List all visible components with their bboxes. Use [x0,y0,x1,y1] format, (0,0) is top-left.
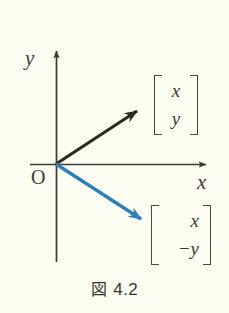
x-axis-label: x [197,172,206,193]
matrix-entry-row2: y [166,105,186,133]
matrix-entry-row2: −y [163,235,199,263]
bracket-right-icon [190,75,198,135]
matrix-label-xy: x y [154,75,198,135]
matrix-body: x y [162,75,190,135]
matrix-entry-row1: x [163,207,199,235]
vector-arrow-xy [56,111,137,164]
bracket-left-icon [154,75,162,135]
coordinate-plot [0,0,229,313]
figure-caption: 図4.2 [0,276,229,300]
matrix-label-x-negy: x −y [151,205,211,265]
vector-arrow-x-negy [56,164,141,219]
matrix-entry-row1: x [166,77,186,105]
caption-figure-word: 図 [91,280,108,299]
origin-label: O [31,167,45,187]
bracket-right-icon [203,205,211,265]
caption-figure-number: 4.2 [113,280,138,299]
bracket-left-icon [151,205,159,265]
figure-container: y x O x y x −y 図4.2 [0,0,229,313]
matrix-body: x −y [159,205,203,265]
y-axis-label: y [25,48,34,69]
